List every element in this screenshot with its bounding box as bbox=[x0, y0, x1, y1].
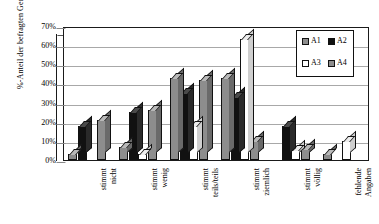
legend-swatch-A2 bbox=[328, 38, 335, 45]
x-tick-label-line: teils/teils bbox=[211, 168, 220, 197]
x-axis-tick-labels: stimmtnichtstimmtwenigstimmtteils/teilss… bbox=[0, 168, 379, 224]
y-tick-label: 60% bbox=[30, 42, 56, 50]
x-tick-label-line: stimmt bbox=[150, 168, 159, 190]
bar-front-face bbox=[69, 155, 76, 159]
legend-item-A4[interactable]: A4 bbox=[328, 59, 347, 67]
bar-front-face bbox=[302, 150, 309, 159]
y-axis-tick-labels: 70%60%50%40%30%20%10%0% bbox=[26, 20, 56, 170]
bar-front-face bbox=[343, 142, 350, 159]
bar-side-face bbox=[350, 131, 356, 153]
bar-A4-stimmt-wenig bbox=[148, 110, 157, 160]
bar-front-face bbox=[120, 148, 127, 159]
x-tick-label-0: stimmtnicht bbox=[75, 168, 131, 222]
x-tick-label-5: fehlendeAngaben bbox=[330, 168, 379, 222]
bar-A4-stimmt-v-llig bbox=[301, 149, 310, 160]
y-tick-label: 40% bbox=[30, 80, 56, 88]
bar-front-face bbox=[139, 155, 146, 159]
bar-A3-stimmt-v-llig bbox=[291, 150, 300, 160]
bar-front-face bbox=[79, 127, 86, 159]
x-tick-label-4: stimmtvöllig bbox=[279, 168, 335, 222]
y-tick-label: 0% bbox=[30, 157, 56, 165]
legend-label: A1 bbox=[311, 37, 321, 45]
bar-A1-stimmt-ziemlich bbox=[221, 78, 230, 160]
x-tick-label-line: Angaben bbox=[364, 168, 373, 197]
bar-front-face bbox=[222, 79, 229, 159]
bar-A1-stimmt-wenig bbox=[119, 147, 128, 160]
chart-floor bbox=[56, 161, 369, 168]
y-tick-label: 20% bbox=[30, 119, 56, 127]
legend-swatch-A1 bbox=[302, 38, 309, 45]
x-tick-label-line: nicht bbox=[109, 168, 118, 184]
bar-side-face bbox=[229, 67, 235, 153]
y-tick-label: 50% bbox=[30, 61, 56, 69]
x-tick-label-line: fehlende bbox=[354, 168, 363, 196]
bar-A3-fehlende-angaben bbox=[342, 141, 351, 160]
legend-swatch-A4 bbox=[328, 60, 335, 67]
x-tick-label-line: stimmt bbox=[99, 168, 108, 190]
bar-front-face bbox=[292, 151, 299, 159]
bar-chart: %-Anteil der befragten Gemeinden 70%60%5… bbox=[0, 0, 379, 224]
bar-side-face bbox=[178, 67, 184, 153]
x-tick-label-line: wenig bbox=[160, 168, 169, 188]
legend-swatch-A3 bbox=[302, 60, 309, 67]
x-tick-label-3: stimmtziemlich bbox=[228, 168, 284, 222]
legend-label: A3 bbox=[311, 59, 321, 67]
x-tick-label-line: ziemlich bbox=[262, 168, 271, 196]
bar-A1-stimmt-teils-teils bbox=[170, 78, 179, 160]
bar-side-face bbox=[248, 29, 254, 153]
bar-A1-fehlende-angaben bbox=[323, 154, 332, 160]
bar-front-face bbox=[171, 79, 178, 159]
x-tick-label-line: völlig bbox=[313, 168, 322, 187]
bar-side-face bbox=[207, 69, 213, 153]
bar-A1-stimmt-nicht bbox=[68, 154, 77, 160]
bar-front-face bbox=[149, 111, 156, 159]
legend-item-A3[interactable]: A3 bbox=[302, 59, 321, 67]
y-tick-label: 10% bbox=[30, 138, 56, 146]
bar-A2-stimmt-v-llig bbox=[282, 126, 291, 160]
bar-front-face bbox=[324, 155, 331, 159]
bar-A2-stimmt-nicht bbox=[78, 126, 87, 160]
bar-front-face bbox=[283, 127, 290, 159]
bar-A2-stimmt-wenig bbox=[129, 112, 138, 160]
bar-A3-stimmt-wenig bbox=[138, 154, 147, 160]
legend-label: A2 bbox=[337, 37, 347, 45]
legend-item-A1[interactable]: A1 bbox=[302, 37, 321, 45]
x-tick-label-line: stimmt bbox=[252, 168, 261, 190]
x-tick-label-1: stimmtwenig bbox=[126, 168, 182, 222]
legend-item-A2[interactable]: A2 bbox=[328, 37, 347, 45]
y-tick-label: 30% bbox=[30, 100, 56, 108]
bar-side-face bbox=[258, 131, 264, 153]
x-tick-label-line: stimmt bbox=[303, 168, 312, 190]
x-tick-label-line: stimmt bbox=[201, 168, 210, 190]
bar-A4-stimmt-nicht bbox=[97, 120, 106, 160]
legend-label: A4 bbox=[337, 59, 347, 67]
x-tick-label-2: stimmtteils/teils bbox=[177, 168, 233, 222]
y-tick-label: 70% bbox=[30, 23, 56, 31]
bar-front-face bbox=[98, 121, 105, 159]
legend: A1A2A3A4 bbox=[296, 30, 354, 77]
bar-front-face bbox=[130, 113, 137, 159]
